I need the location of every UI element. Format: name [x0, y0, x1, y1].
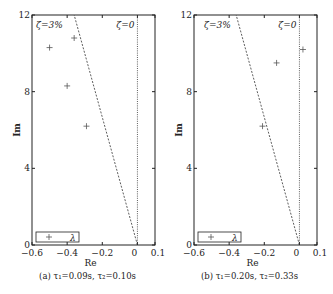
annotation-zeta-0: ζ=0: [116, 20, 134, 30]
y-tick-label: 8: [186, 87, 192, 97]
annotation-zeta-3: ζ=3%: [36, 20, 63, 30]
x-axis-label: Re: [246, 258, 258, 268]
y-tick-label: 0: [24, 240, 30, 250]
data-point: [83, 123, 89, 129]
x-axis-label: Re: [84, 258, 96, 268]
subplot-caption: (a) τ₁=0.09s, τ₂=0.10s: [39, 271, 136, 281]
x-tick-label: −0.4: [56, 248, 78, 258]
x-tick-label: −0.2: [253, 248, 275, 258]
annotation-zeta-3: ζ=3%: [204, 20, 231, 30]
data-point: [47, 45, 53, 51]
subplot-b: −0.6−0.4−0.200.104812ReImζ=3%ζ=0λ(b) τ₁=…: [174, 10, 327, 281]
damping-line: [236, 15, 299, 245]
x-tick-label: 0: [132, 248, 138, 258]
y-tick-label: 0: [186, 240, 192, 250]
data-point: [300, 47, 306, 53]
subplot-a: −0.6−0.4−0.200.104812ReImζ=3%ζ=0λ(a) τ₁=…: [12, 10, 165, 281]
y-tick-label: 8: [24, 87, 30, 97]
y-tick-label: 4: [186, 163, 192, 173]
data-point: [260, 123, 266, 129]
legend-label: λ: [69, 233, 76, 243]
axes-box: [194, 15, 317, 245]
axes-box: [32, 15, 155, 245]
annotation-zeta-0: ζ=0: [278, 20, 296, 30]
y-axis-label: Im: [12, 123, 22, 137]
x-tick-label: 0.1: [313, 248, 327, 258]
damping-line: [74, 15, 137, 245]
data-point: [64, 83, 70, 89]
y-tick-label: 12: [19, 10, 30, 20]
data-point: [71, 35, 77, 41]
data-point: [274, 60, 280, 66]
chart-figure: −0.6−0.4−0.200.104812ReImζ=3%ζ=0λ(a) τ₁=…: [0, 0, 333, 294]
y-axis-label: Im: [174, 123, 184, 137]
x-tick-label: −0.4: [218, 248, 240, 258]
subplot-caption: (b) τ₁=0.20s, τ₂=0.33s: [201, 271, 298, 281]
y-tick-label: 4: [24, 163, 30, 173]
x-tick-label: −0.2: [91, 248, 113, 258]
legend-label: λ: [231, 233, 238, 243]
x-tick-label: 0.1: [151, 248, 165, 258]
y-tick-label: 12: [181, 10, 192, 20]
x-tick-label: 0: [294, 248, 300, 258]
